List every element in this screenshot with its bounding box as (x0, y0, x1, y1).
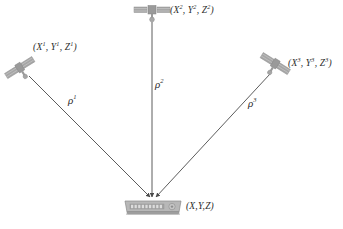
satellite-2-icon (133, 2, 171, 26)
receiver-icon (122, 198, 184, 217)
range-label-3: ρ3 (248, 97, 257, 109)
range-line-3 (156, 74, 270, 197)
receiver-label: (X,Y,Z) (186, 201, 214, 211)
satellite-1-label: (X1, Y1, Z1) (33, 42, 77, 52)
range-lines-group (0, 0, 343, 229)
range-line-1 (29, 76, 150, 197)
diagram-canvas: (X1, Y1, Z1) (X2, Y2, Z2) (0, 0, 343, 229)
satellite-2-label: (X2, Y2, Z2) (170, 5, 214, 15)
range-label-1: ρ1 (68, 94, 77, 106)
range-label-2: ρ2 (155, 78, 164, 90)
satellite-1-icon (2, 54, 38, 82)
satellite-3-label: (X3, Y3, Z3) (288, 58, 332, 68)
